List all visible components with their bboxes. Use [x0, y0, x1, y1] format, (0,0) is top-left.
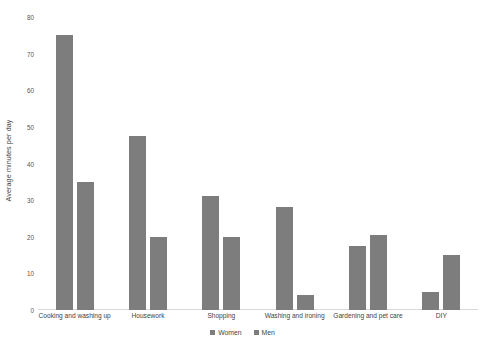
y-axis-tick-label: 30 [27, 197, 34, 204]
y-axis-tick-label: 20 [27, 233, 34, 240]
bar-group [405, 17, 478, 310]
x-axis-category-label: Gardening and pet care [331, 312, 404, 319]
y-axis-title: Average minutes per day [0, 0, 16, 320]
y-axis-tick-label: 0 [30, 307, 34, 314]
bar-men[interactable] [443, 255, 460, 310]
chart-legend: WomenMen [0, 329, 485, 336]
y-axis-tick-label: 80 [27, 14, 34, 21]
bar-group [258, 17, 331, 310]
bar-group [185, 17, 258, 310]
x-axis-labels: Cooking and washing upHouseworkShoppingW… [38, 312, 478, 319]
legend-swatch-icon [210, 330, 215, 335]
y-axis-tick-label: 70 [27, 50, 34, 57]
bar-women[interactable] [56, 35, 73, 310]
bar-women[interactable] [422, 292, 439, 310]
y-axis-tick-label: 60 [27, 87, 34, 94]
legend-swatch-icon [254, 330, 259, 335]
y-axis-tick-label: 10 [27, 270, 34, 277]
x-axis-category-label: Washing and ironing [258, 312, 331, 319]
bar-women[interactable] [276, 207, 293, 310]
bar-men[interactable] [223, 237, 240, 310]
legend-item[interactable]: Men [254, 329, 275, 336]
bar-men[interactable] [77, 182, 94, 310]
x-axis-category-label: DIY [405, 312, 478, 319]
plot-area: 01020304050607080 [38, 17, 478, 310]
bar-men[interactable] [297, 295, 314, 310]
bar-group [38, 17, 111, 310]
legend-item[interactable]: Women [210, 329, 241, 336]
bar-groups [38, 17, 478, 310]
bar-men[interactable] [370, 235, 387, 310]
legend-label: Women [218, 329, 241, 336]
bar-women[interactable] [202, 196, 219, 310]
bar-men[interactable] [150, 237, 167, 310]
bar-women[interactable] [349, 246, 366, 310]
y-axis-tick-label: 40 [27, 160, 34, 167]
y-axis-tick-label: 50 [27, 123, 34, 130]
bar-group [331, 17, 404, 310]
bar-group [111, 17, 184, 310]
x-axis-category-label: Housework [111, 312, 184, 319]
x-axis-category-label: Cooking and washing up [38, 312, 111, 319]
x-axis-category-label: Shopping [185, 312, 258, 319]
bar-chart: Average minutes per day 0102030405060708… [0, 0, 485, 343]
y-axis-title-text: Average minutes per day [4, 119, 13, 201]
legend-label: Men [262, 329, 275, 336]
bar-women[interactable] [129, 136, 146, 310]
